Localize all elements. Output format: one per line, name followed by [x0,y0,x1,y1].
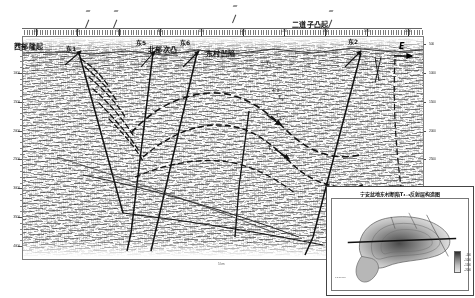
inset-map-legend-bar [454,251,461,273]
axis-tick-label: 2500 [429,157,436,161]
inset-legend-label: -1000 [464,259,471,262]
axis-tick-label: 2000 [429,129,436,133]
figure-root: 200400600800100012001400160018002000 500… [0,0,475,298]
inset-legend-label: -2000 [464,269,471,272]
inset-map-frame [331,198,469,291]
axis-tick-label: 4000 [13,244,20,248]
inset-map-contours [332,199,468,290]
ruler-label: 1000 [198,30,204,33]
horizontal-scale-note: 5 km [218,262,225,266]
axis-tick-label: 2500 [13,157,20,161]
two-way-time-axis-left: 5001000150020002500300035004000 [0,36,22,258]
label-western-uplift: 西部隆起 [14,41,43,51]
ruler-label: 2000 [405,30,411,33]
axis-tick-label: 1000 [13,71,20,75]
axis-tick-label: 3500 [13,215,20,219]
ruler-label: 200 [34,30,38,33]
label-well-dong-2: 东2 [348,37,358,46]
label-horizon-t4-1: T4-1 [266,60,275,68]
axis-tick-label: 1500 [429,100,436,104]
label-dongcun-sag: 东村凹陷 [206,48,235,58]
inset-map-scale: 0 5 10 km [335,276,346,279]
inset-legend-label: -1500 [464,264,471,267]
ruler-label: 1200 [240,30,246,33]
inset-legend-label: -500 [466,254,471,257]
inset-map-title: 宁安盆地东村断陷T₄₋₃反射层构造图 [327,190,473,197]
label-erdaozi-bulge: 二道子凸起 [292,19,329,29]
inset-structure-map: 宁安盆地东村断陷T₄₋₃反射层构造图 [326,186,474,296]
ruler-label: 800 [158,30,162,33]
label-horizon-t4-2: T4-2 [276,112,285,120]
axis-tick-label: 1500 [13,100,20,104]
label-well-dong-6: 东6 [180,38,190,47]
well-leader-dong-1 [65,51,81,65]
label-northern-sub-bulge: 北部次凸 [148,44,177,54]
axis-tick-label: 1000 [429,71,436,75]
well-leader-dong-2 [345,51,361,67]
label-well-dong-5: 东5 [136,38,146,47]
east-arrow-label: E [399,42,404,51]
axis-tick-label: 3000 [13,186,20,190]
sag-tail-lobe [356,256,378,282]
label-depth-marker-4-8: 4.8 [272,88,279,93]
ruler-label: 1400 [281,30,287,33]
ruler-label: 600 [116,30,120,33]
ruler-label: 400 [75,30,79,33]
ruler-label: 1800 [364,30,370,33]
east-arrow-icon [394,54,418,60]
axis-tick-label: 2000 [13,129,20,133]
ruler-label: 1600 [322,30,328,33]
axis-tick-label: 500 [429,42,434,46]
label-horizon-t4: T4 [268,145,273,153]
label-well-dong-1: 东1 [66,44,76,53]
label-horizon-t3: T3 [278,94,283,102]
well-leader-dong-6 [183,51,199,67]
